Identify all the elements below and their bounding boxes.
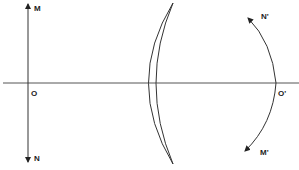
label-m-prime: M' — [260, 148, 269, 157]
optics-diagram: M N O N' M' O' — [0, 0, 299, 170]
label-o: O — [31, 89, 37, 98]
image-curve-lower — [245, 83, 276, 151]
label-m: M — [34, 4, 41, 13]
image-curve-upper — [248, 18, 276, 83]
label-n-prime: N' — [261, 12, 269, 21]
label-o-prime: O' — [278, 89, 286, 98]
label-n: N — [34, 154, 40, 163]
